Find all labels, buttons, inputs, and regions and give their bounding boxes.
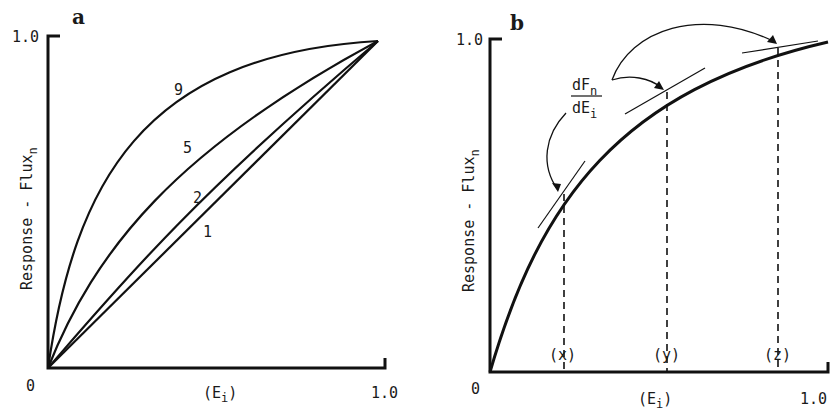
- curve-1: [48, 41, 378, 368]
- panel-b: b 1.0 0 1.0 (x) (y) (z) dFn dEi Re: [456, 11, 828, 411]
- panel-b-label: b: [510, 11, 524, 35]
- derivative-denominator: dEi: [572, 99, 597, 121]
- panel-a-origin: 0: [26, 377, 35, 395]
- point-label-y: (y): [653, 346, 680, 364]
- arrowhead-y: [654, 81, 664, 90]
- curve-label-5: 5: [183, 139, 192, 157]
- curve-label-2: 2: [193, 189, 202, 207]
- panel-a-x-label: (Ei): [203, 384, 237, 405]
- panel-b-y-label: Response - Fluxn: [460, 149, 482, 292]
- point-label-z: (z): [764, 346, 791, 364]
- arrowhead-x: [552, 183, 561, 192]
- figure: a 1.0 0 1.0 9 5 2 1 Response - Fluxn (Ei…: [0, 0, 834, 418]
- point-label-x: (x): [549, 346, 576, 364]
- svg-text:Response - Fluxn: Response - Fluxn: [460, 149, 482, 292]
- panel-a: a 1.0 0 1.0 9 5 2 1 Response - Fluxn (Ei…: [12, 5, 398, 405]
- panel-b-x-label: (Ei): [638, 390, 672, 411]
- curve-label-1: 1: [203, 223, 212, 241]
- panel-a-y-max: 1.0: [12, 28, 39, 46]
- panel-b-x-max: 1.0: [800, 390, 827, 408]
- panel-a-x-max: 1.0: [371, 384, 398, 402]
- panel-a-y-label: Response - Fluxn: [18, 147, 40, 290]
- panel-b-origin: 0: [471, 380, 480, 398]
- derivative-numerator: dFn: [572, 76, 597, 98]
- arrow-to-x: [547, 113, 566, 190]
- arrow-to-y: [612, 77, 662, 88]
- curve-label-9: 9: [174, 81, 183, 99]
- panel-a-label: a: [72, 5, 85, 29]
- tangent-x: [538, 161, 585, 228]
- panel-b-y-max: 1.0: [456, 31, 483, 49]
- svg-text:Response - Fluxn: Response - Fluxn: [18, 147, 40, 290]
